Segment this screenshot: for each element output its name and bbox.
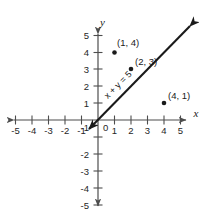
x-axis-tick-labels: -5 -4 -3 -2 -1 1 2 3 4 5 (11, 125, 183, 136)
y-tick-label-2: 2 (84, 81, 89, 92)
y-tick-label--2: -2 (81, 149, 89, 160)
plotted-line (89, 26, 190, 129)
y-tick-label--1: -1 (81, 122, 89, 133)
point-label-1-4: (1, 4) (117, 37, 139, 48)
point-label-2-3: (2, 3) (135, 56, 157, 67)
y-tick-label-4: 4 (84, 47, 89, 58)
point-label-4-1: (4, 1) (168, 90, 190, 101)
point-marker-1-4 (112, 50, 117, 55)
x-axis-label: x (193, 107, 199, 119)
x-tick-label--3: -3 (44, 125, 52, 136)
x-tick-label--5: -5 (11, 125, 19, 136)
data-point-labels: (1, 4) (2, 3) (4, 1) (117, 37, 190, 101)
point-marker-2-3 (129, 67, 134, 72)
y-tick-label--5: -5 (81, 200, 89, 211)
y-axis-label: y (99, 16, 105, 28)
equation-label: x + y = 5 (102, 69, 133, 100)
x-tick-label-2: 2 (128, 125, 133, 136)
graph-screenshot: x y -5 -4 -3 -2 (0, 0, 214, 215)
coordinate-plane-graph: x y -5 -4 -3 -2 (0, 0, 214, 215)
point-marker-4-1 (162, 101, 167, 106)
x-tick-label-4: 4 (161, 125, 166, 136)
y-axis: y (94, 16, 106, 206)
y-tick-label-3: 3 (84, 64, 89, 75)
x-tick-label--4: -4 (28, 125, 36, 136)
x-tick-label-1: 1 (112, 125, 117, 136)
x-tick-label-5: 5 (178, 125, 183, 136)
x-tick-label--2: -2 (61, 125, 69, 136)
y-tick-label--3: -3 (81, 166, 89, 177)
line-series-x-plus-y-equals-5 (89, 26, 190, 129)
y-tick-label--4: -4 (81, 183, 89, 194)
y-tick-label-1: 1 (84, 98, 89, 109)
origin-label: 0 (103, 122, 108, 133)
y-tick-label-5: 5 (84, 30, 89, 41)
x-tick-label-3: 3 (145, 125, 150, 136)
